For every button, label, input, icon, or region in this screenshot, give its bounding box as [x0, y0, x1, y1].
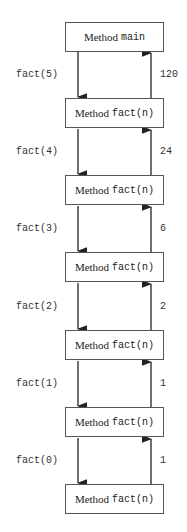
method-box-fact-3: Method fact(n)	[65, 252, 164, 282]
method-name: fact(n)	[112, 340, 154, 351]
method-name: fact(n)	[112, 262, 154, 273]
call-label: fact(2)	[16, 301, 58, 312]
method-name: fact(n)	[112, 185, 154, 196]
return-label: 6	[160, 223, 166, 234]
method-name: main	[121, 32, 145, 43]
method-box-fact-2: Method fact(n)	[65, 175, 164, 205]
return-label: 1	[160, 378, 166, 389]
method-word: Method	[75, 339, 109, 351]
method-word: Method	[75, 184, 109, 196]
return-label: 2	[160, 301, 166, 312]
call-label: fact(4)	[16, 146, 58, 157]
return-label: 1	[160, 455, 166, 466]
method-name: fact(n)	[112, 108, 154, 119]
return-label: 120	[160, 69, 178, 80]
method-box-fact-6: Method fact(n)	[65, 484, 164, 514]
method-word: Method	[75, 107, 109, 119]
call-label: fact(0)	[16, 455, 58, 466]
method-box-fact-1: Method fact(n)	[65, 98, 164, 128]
return-label: 24	[160, 146, 172, 157]
call-label: fact(1)	[16, 378, 58, 389]
method-word: Method	[84, 31, 118, 43]
method-word: Method	[75, 493, 109, 505]
method-box-main: Method main	[65, 22, 164, 52]
method-box-fact-5: Method fact(n)	[65, 407, 164, 437]
call-label: fact(5)	[16, 69, 58, 80]
method-name: fact(n)	[112, 417, 154, 428]
method-box-fact-4: Method fact(n)	[65, 330, 164, 360]
method-name: fact(n)	[112, 494, 154, 505]
call-label: fact(3)	[16, 223, 58, 234]
method-word: Method	[75, 261, 109, 273]
method-word: Method	[75, 416, 109, 428]
